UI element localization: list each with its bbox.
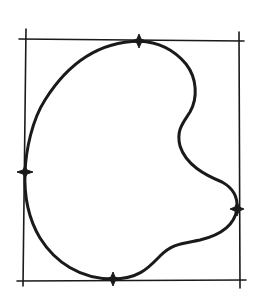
tangent-marker-top [132, 34, 146, 48]
kidney-shape-curve [25, 41, 237, 279]
box-bottom-edge [17, 280, 246, 281]
tangent-marker-left [17, 166, 33, 178]
box-right-edge [239, 32, 240, 288]
tangent-marker-right [230, 202, 244, 216]
tangent-marker-bottom [106, 272, 120, 286]
diagram-canvas [0, 0, 259, 297]
